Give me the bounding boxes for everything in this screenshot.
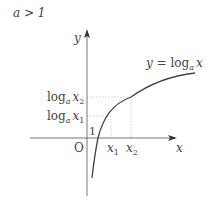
svg-text:y = logax: y = logax — [145, 56, 203, 72]
curve-label: y = logax — [145, 56, 203, 72]
y-intercept-label: 1 — [89, 125, 96, 138]
svg-text:logax1: logax1 — [47, 109, 84, 125]
origin-label: O — [74, 141, 84, 155]
x2-label: x2 — [126, 141, 138, 157]
logx1-label: logax1 — [47, 109, 84, 125]
svg-text:logax2: logax2 — [47, 90, 84, 106]
y-axis-label: y — [73, 31, 81, 45]
svg-text:x1: x1 — [107, 141, 119, 157]
x-axis-label: x — [176, 141, 183, 155]
x1-label: x1 — [107, 141, 119, 157]
log-curve — [92, 73, 195, 178]
svg-text:x2: x2 — [126, 141, 138, 157]
log-graph: a > 1 y x O 1 y = logax logax2 logax1 x1 — [0, 0, 210, 203]
logx2-label: logax2 — [47, 90, 84, 106]
condition-label: a > 1 — [13, 6, 45, 20]
